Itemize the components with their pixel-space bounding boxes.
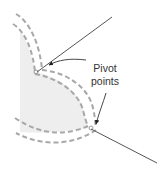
annotation-arrow-1 [49, 59, 86, 65]
annotation-arrow-2 [96, 93, 106, 124]
label-pivot: Pivot [85, 62, 125, 74]
pivot-points-diagram [0, 0, 168, 180]
tangent-line-2 [91, 129, 157, 163]
label-points: points [85, 75, 125, 87]
